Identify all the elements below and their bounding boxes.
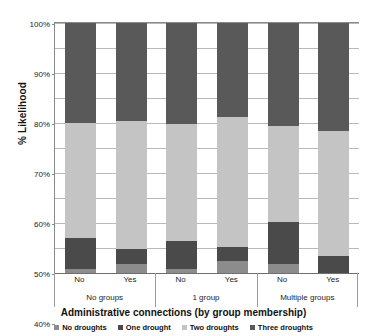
bar-segment bbox=[116, 23, 147, 121]
y-axis-tick-label: 60% bbox=[34, 220, 50, 229]
x-axis-sub-label: No bbox=[277, 275, 287, 284]
legend-swatch-icon bbox=[182, 325, 187, 330]
category-axis: NoYesNoYesNoYes No groups1 groupMultiple… bbox=[54, 273, 359, 307]
legend-label: No droughts bbox=[62, 323, 107, 332]
bars-layer bbox=[55, 23, 359, 273]
bar-stack bbox=[65, 23, 96, 273]
bar-segment bbox=[116, 249, 147, 264]
bar-segment bbox=[166, 23, 197, 124]
x-axis-sub-label: Yes bbox=[326, 275, 339, 284]
bar-segment bbox=[116, 264, 147, 273]
plot-area: 0%10%20%30%40%50%60%70%80%90%100% bbox=[54, 22, 359, 273]
category-row-sub: NoYesNoYesNoYes bbox=[54, 273, 359, 290]
y-axis-tick-label: 50% bbox=[34, 270, 50, 279]
x-axis-group-label: No groups bbox=[86, 293, 123, 302]
legend-swatch-icon bbox=[118, 325, 123, 330]
bar-segment bbox=[268, 222, 299, 265]
axis-group-separator bbox=[357, 273, 358, 307]
legend-item: Two droughts bbox=[182, 323, 239, 332]
bar-stack bbox=[268, 23, 299, 273]
bar-stack bbox=[318, 23, 349, 273]
bar-segment bbox=[268, 264, 299, 273]
bar-segment bbox=[318, 23, 349, 131]
x-axis-sub-label: Yes bbox=[225, 275, 238, 284]
bar-segment bbox=[217, 261, 248, 274]
bar-segment bbox=[166, 124, 197, 240]
legend-item: No droughts bbox=[54, 323, 107, 332]
x-axis-group-label: 1 group bbox=[192, 293, 219, 302]
bar-stack bbox=[166, 23, 197, 273]
bar-segment bbox=[318, 131, 349, 256]
legend-label: Two droughts bbox=[190, 323, 239, 332]
axis-group-separator bbox=[54, 273, 55, 307]
x-axis-sub-label: No bbox=[74, 275, 84, 284]
bar-segment bbox=[268, 23, 299, 126]
legend-swatch-icon bbox=[250, 325, 255, 330]
category-row-group: No groups1 groupMultiple groups bbox=[54, 290, 359, 307]
bar-segment bbox=[65, 238, 96, 269]
axis-group-separator bbox=[257, 273, 258, 307]
axis-group-separator bbox=[155, 273, 156, 307]
stacked-bar-chart: % Likelihood 0%10%20%30%40%50%60%70%80%9… bbox=[0, 0, 367, 336]
bar-segment bbox=[116, 121, 147, 250]
y-axis-tick-label: 80% bbox=[34, 120, 50, 129]
legend-item: One drought bbox=[118, 323, 171, 332]
bar-stack bbox=[217, 23, 248, 273]
bar-segment bbox=[318, 256, 349, 274]
bar-segment bbox=[217, 117, 248, 247]
bar-segment bbox=[217, 247, 248, 261]
bar-segment bbox=[166, 241, 197, 270]
chart-legend: No droughtsOne droughtTwo droughtsThree … bbox=[0, 323, 367, 332]
y-axis-tick-label: 100% bbox=[30, 20, 50, 29]
legend-swatch-icon bbox=[54, 325, 59, 330]
legend-item: Three droughts bbox=[250, 323, 313, 332]
x-axis-sub-label: Yes bbox=[123, 275, 136, 284]
bar-segment bbox=[268, 126, 299, 222]
bar-segment bbox=[217, 23, 248, 117]
y-axis-title: % Likelihood bbox=[17, 54, 28, 174]
bar-stack bbox=[116, 23, 147, 273]
x-axis-title: Administrative connections (by group mem… bbox=[0, 307, 367, 318]
y-axis-tick-label: 70% bbox=[34, 170, 50, 179]
y-axis-tick-label: 90% bbox=[34, 70, 50, 79]
legend-label: Three droughts bbox=[258, 323, 313, 332]
x-axis-sub-label: No bbox=[176, 275, 186, 284]
bar-segment bbox=[65, 23, 96, 123]
legend-label: One drought bbox=[126, 323, 171, 332]
bar-segment bbox=[65, 123, 96, 238]
x-axis-group-label: Multiple groups bbox=[280, 293, 334, 302]
